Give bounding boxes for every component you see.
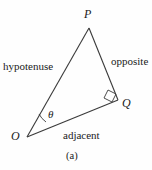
trigonometry-triangle-figure: P Q O hypotenuse opposite adjacent θ (a)	[0, 0, 152, 170]
figure-caption: (a)	[66, 151, 78, 162]
angle-arc-theta	[39, 114, 46, 122]
angle-label-theta: θ	[48, 109, 53, 120]
triangle-drawing	[0, 0, 152, 170]
side-label-adjacent: adjacent	[63, 130, 100, 141]
side-label-hypotenuse: hypotenuse	[3, 61, 53, 72]
vertex-label-o: O	[11, 130, 20, 142]
vertex-label-q: Q	[122, 97, 131, 109]
side-label-opposite: opposite	[111, 56, 148, 67]
vertex-label-p: P	[84, 8, 91, 20]
hypotenuse-line	[27, 28, 89, 137]
